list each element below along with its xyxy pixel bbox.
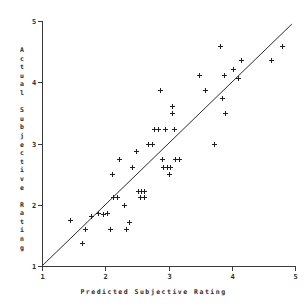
data-point-marker <box>108 227 113 232</box>
data-point-marker <box>115 195 120 200</box>
data-point-marker <box>212 142 217 147</box>
y-axis-title-char: S <box>16 106 28 115</box>
y-axis-title-char: A <box>16 46 28 55</box>
y-axis-title-char: b <box>16 123 28 132</box>
y-axis-title-char: e <box>16 184 28 193</box>
data-point-marker <box>222 73 227 78</box>
data-point-marker <box>150 142 155 147</box>
data-point-marker <box>170 104 175 109</box>
data-point-marker <box>280 44 285 49</box>
data-point-marker <box>170 111 175 116</box>
data-point-marker <box>134 149 139 154</box>
y-axis-title-char: t <box>16 158 28 167</box>
y-axis-title-char: l <box>16 89 28 98</box>
y-axis-title-char: u <box>16 115 28 124</box>
data-point-marker <box>168 165 173 170</box>
reference-line-group <box>42 24 292 266</box>
x-tick-label: 5 <box>293 273 297 281</box>
data-points-group <box>68 44 285 246</box>
data-point-marker <box>167 172 172 177</box>
data-point-marker <box>142 195 147 200</box>
y-axis-title-space <box>16 98 28 107</box>
data-point-marker <box>124 227 129 232</box>
y-axis-title-char: c <box>16 149 28 158</box>
data-point-marker <box>163 127 168 132</box>
data-point-marker <box>177 157 182 162</box>
data-point-marker <box>89 214 94 219</box>
y-tick-label: 4 <box>32 79 36 87</box>
y-axis-title-char: a <box>16 80 28 89</box>
x-tick-label: 4 <box>230 273 234 281</box>
data-point-marker <box>83 227 88 232</box>
data-point-marker <box>172 127 177 132</box>
y-axis-title-char: e <box>16 141 28 150</box>
x-tick-label: 1 <box>40 273 44 281</box>
y-axis-title-char: g <box>16 244 28 253</box>
y-axis-title-char: n <box>16 235 28 244</box>
data-point-marker <box>220 96 225 101</box>
y-axis-title-char: R <box>16 201 28 210</box>
data-point-marker <box>122 203 127 208</box>
data-point-marker <box>158 88 163 93</box>
data-point-marker <box>160 157 165 162</box>
identity-line <box>42 24 292 266</box>
y-axis-title-char: c <box>16 55 28 64</box>
x-axis-title: Predicted Subjective Rating <box>0 288 307 296</box>
data-point-marker <box>197 73 202 78</box>
y-axis-title-char: j <box>16 132 28 141</box>
data-point-marker <box>105 211 110 216</box>
data-point-marker <box>80 241 85 246</box>
data-point-marker <box>218 44 223 49</box>
data-point-marker <box>127 220 132 225</box>
x-tick-label: 2 <box>103 273 107 281</box>
y-tick-label: 1 <box>32 263 36 271</box>
y-axis-title-char: i <box>16 226 28 235</box>
data-point-marker <box>101 212 106 217</box>
y-axis-title-char: u <box>16 72 28 81</box>
data-point-marker <box>117 157 122 162</box>
data-point-marker <box>203 88 208 93</box>
y-axis-title-char: a <box>16 209 28 218</box>
data-point-marker <box>223 111 228 116</box>
data-point-marker <box>231 67 236 72</box>
data-point-marker <box>110 172 115 177</box>
y-tick-label: 3 <box>32 141 36 149</box>
y-axis-title-char: t <box>16 63 28 72</box>
y-tick-label: 5 <box>32 18 36 26</box>
data-point-marker <box>130 165 135 170</box>
scatter-plot-figure: 1234512345 Predicted Subjective Rating A… <box>0 0 307 307</box>
x-tick-label: 3 <box>167 273 171 281</box>
data-point-marker <box>142 189 147 194</box>
data-point-marker <box>68 218 73 223</box>
plot-canvas: 1234512345 <box>0 0 307 307</box>
y-axis-title-char: i <box>16 166 28 175</box>
y-axis-title-char: t <box>16 218 28 227</box>
data-point-marker <box>239 58 244 63</box>
y-tick-label: 2 <box>32 202 36 210</box>
y-axis-title: Actual Subjective Rating <box>16 46 28 252</box>
y-axis-title-space <box>16 192 28 201</box>
y-axis-title-char: v <box>16 175 28 184</box>
data-point-marker <box>269 58 274 63</box>
data-point-marker <box>96 211 101 216</box>
data-point-marker <box>156 127 161 132</box>
